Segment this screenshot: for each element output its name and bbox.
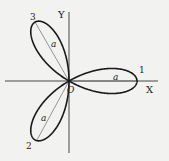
petal-1-number: 1 bbox=[139, 65, 145, 75]
origin-label: O bbox=[67, 85, 75, 95]
petal-1-radius-label: a bbox=[113, 72, 118, 82]
petal-3-radius-label: a bbox=[51, 39, 56, 49]
petal-2-number: 2 bbox=[26, 141, 32, 151]
y-axis-label: Y bbox=[57, 9, 65, 20]
three-leaved-rose-diagram: Y X O 1 2 3 a a a bbox=[0, 0, 169, 161]
petal-2-radius-label: a bbox=[41, 113, 46, 123]
x-axis-label: X bbox=[146, 84, 154, 95]
petal-3-number: 3 bbox=[30, 12, 36, 22]
